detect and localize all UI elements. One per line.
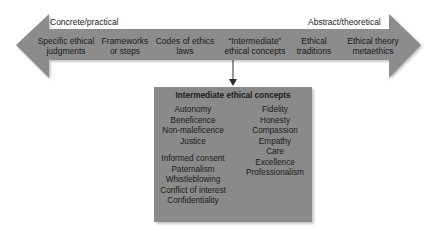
concept-item: Conflict of interest: [156, 186, 230, 197]
abstract-theoretical-label: Abstract/theoretical: [308, 17, 381, 27]
stage-line2: laws: [155, 46, 215, 56]
stage-ethical-theory: Ethical theory metaethics: [342, 36, 404, 56]
concept-item: Fidelity: [244, 105, 306, 116]
stage-line1: Ethical: [292, 36, 336, 46]
concept-item: Care: [244, 147, 306, 158]
concept-item: Confidentiality: [156, 196, 230, 207]
stage-intermediate-concepts: “Intermediate” ethical concepts: [223, 36, 287, 56]
concept-item: Excellence: [244, 158, 306, 169]
stage-line1: “Intermediate”: [223, 36, 287, 46]
concept-item: Autonomy: [156, 105, 230, 116]
concrete-practical-label: Concrete/practical: [50, 17, 119, 27]
stage-line2: or steps: [100, 46, 150, 56]
right-concepts-column: Fidelity Honesty Compassion Empathy Care…: [244, 105, 306, 179]
stage-frameworks: Frameworks or steps: [100, 36, 150, 56]
stage-line1: Codes of ethics: [155, 36, 215, 46]
concept-item: Professionalism: [244, 168, 306, 179]
box-title: Intermediate ethical concepts: [154, 91, 312, 100]
stage-line2: traditions: [292, 46, 336, 56]
concept-item: Honesty: [244, 116, 306, 127]
concept-item: Empathy: [244, 137, 306, 148]
concept-item: Compassion: [244, 126, 306, 137]
stage-ethical-traditions: Ethical traditions: [292, 36, 336, 56]
stage-line1: Ethical theory: [342, 36, 404, 46]
stage-codes-of-ethics: Codes of ethics laws: [155, 36, 215, 56]
concept-item: Non-maleficence: [156, 126, 230, 137]
left-concepts-column: Autonomy Beneficence Non-maleficence Jus…: [156, 105, 230, 207]
concept-item: Paternalism: [156, 165, 230, 176]
concept-item: Beneficence: [156, 116, 230, 127]
stage-specific-judgments: Specific ethical judgments: [36, 36, 96, 56]
stage-line1: Frameworks: [100, 36, 150, 46]
concept-item: Informed consent: [156, 154, 230, 165]
stage-line2: metaethics: [342, 46, 404, 56]
concept-item: Whistleblowing: [156, 175, 230, 186]
stage-line2: ethical concepts: [223, 46, 287, 56]
concept-item: Justice: [156, 137, 230, 148]
stage-line2: judgments: [36, 46, 96, 56]
stage-line1: Specific ethical: [36, 36, 96, 46]
down-arrow-icon: [229, 79, 237, 86]
intermediate-concepts-box: Intermediate ethical concepts Autonomy B…: [154, 87, 312, 222]
